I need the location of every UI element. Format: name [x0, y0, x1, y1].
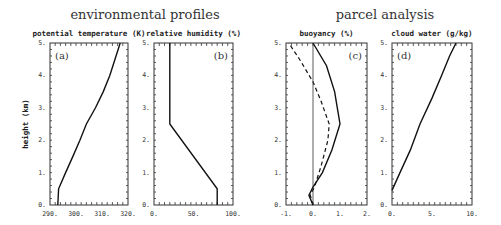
- y-tick-label: 3.: [380, 104, 388, 112]
- y-tick-label: 2.: [142, 136, 150, 144]
- series-theta: [58, 43, 120, 205]
- x-tick-label: 310.: [94, 210, 110, 218]
- y-tick-label: 4.: [380, 71, 388, 79]
- panel-a: potential temperature (K)290.300.310.320…: [33, 29, 146, 218]
- panel-title: potential temperature (K): [33, 29, 146, 38]
- y-tick-label: 1.: [38, 169, 46, 177]
- y-tick-label: 1.: [274, 169, 282, 177]
- panel-title: cloud water (g/kg): [391, 29, 472, 38]
- y-tick-label: 0.: [38, 201, 46, 209]
- y-tick-label: 5.: [380, 39, 388, 47]
- x-tick-label: -1.: [280, 210, 292, 218]
- y-tick-label: 2.: [380, 136, 388, 144]
- plot-frame: [154, 43, 233, 205]
- y-tick-label: 1.: [380, 169, 388, 177]
- x-tick-label: 2.: [363, 210, 371, 218]
- y-tick-label: 0.: [274, 201, 282, 209]
- panel-c: buoyancy (%)-1.0.1.2.0.1.2.3.4.5.(c): [274, 29, 371, 218]
- plot-frame: [392, 43, 472, 205]
- panel-letter: (b): [214, 50, 228, 61]
- right-group-title: parcel analysis: [336, 7, 434, 22]
- x-tick-label: 10.: [466, 210, 478, 218]
- y-tick-label: 5.: [38, 39, 46, 47]
- y-tick-label: 3.: [274, 104, 282, 112]
- x-tick-label: 5.: [428, 210, 436, 218]
- series-qc: [392, 43, 456, 190]
- x-tick-label: 50.: [188, 210, 200, 218]
- y-tick-label: 2.: [274, 136, 282, 144]
- x-tick-label: 1.: [336, 210, 344, 218]
- y-tick-label: 2.: [38, 136, 46, 144]
- y-axis-label: height (km): [21, 99, 30, 149]
- y-tick-label: 4.: [274, 71, 282, 79]
- y-tick-label: 4.: [142, 71, 150, 79]
- x-tick-label: 100.: [225, 210, 241, 218]
- left-group-title: environmental profiles: [70, 7, 219, 22]
- x-tick-label: 300.: [68, 210, 84, 218]
- panel-b: relative humidity (%)0.50.100.0.1.2.3.4.…: [142, 29, 241, 218]
- y-tick-label: 1.: [142, 169, 150, 177]
- y-tick-label: 3.: [38, 104, 46, 112]
- y-tick-label: 5.: [274, 39, 282, 47]
- figure: environmental profiles parcel analysis h…: [0, 0, 501, 225]
- series-solid: [309, 43, 340, 205]
- x-tick-label: 320.: [120, 210, 136, 218]
- y-tick-label: 5.: [142, 39, 150, 47]
- panel-title: relative humidity (%): [146, 29, 241, 38]
- series-dashed: [289, 43, 330, 205]
- x-tick-label: 0.: [388, 210, 396, 218]
- panel-letter: (d): [397, 50, 411, 61]
- panel-d: cloud water (g/kg)0.5.10.0.1.2.3.4.5.(d): [380, 29, 478, 218]
- y-tick-label: 0.: [142, 201, 150, 209]
- x-tick-label: 0.: [309, 210, 317, 218]
- x-tick-label: 0.: [150, 210, 158, 218]
- panel-letter: (a): [55, 50, 69, 61]
- panel-title: buoyancy (%): [299, 29, 353, 38]
- series-RH: [170, 43, 217, 205]
- y-tick-label: 0.: [380, 201, 388, 209]
- panel-letter: (c): [349, 50, 363, 61]
- y-tick-label: 3.: [142, 104, 150, 112]
- y-tick-label: 4.: [38, 71, 46, 79]
- x-tick-label: 290.: [42, 210, 58, 218]
